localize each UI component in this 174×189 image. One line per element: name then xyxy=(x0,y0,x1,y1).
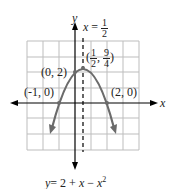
fraction: 1 2 xyxy=(101,18,108,39)
y-axis-down-arrow-icon xyxy=(72,162,78,170)
vertex-label: (12, 94) xyxy=(86,48,114,69)
x-axis-arrow-icon xyxy=(150,100,158,106)
y-axis-label: y xyxy=(72,12,77,24)
vertex-point xyxy=(81,66,85,70)
x-axis-label: x xyxy=(160,97,165,109)
point-2-0 xyxy=(105,101,109,105)
point-label-2-0: (2, 0) xyxy=(111,86,137,98)
curve-left-arrow-icon xyxy=(49,124,56,134)
point-neg1-0 xyxy=(57,101,61,105)
equation-label: y= 2 + x − x2 xyxy=(45,176,106,189)
x-axis xyxy=(10,100,158,106)
y-axis xyxy=(72,22,78,170)
point-label-neg1-0: (-1, 0) xyxy=(24,86,54,98)
point-0-2 xyxy=(73,70,77,74)
x-axis-left-arrow-icon xyxy=(10,100,18,106)
axis-of-symmetry-label: x = 1 2 xyxy=(83,18,108,39)
curve-right-arrow-icon xyxy=(110,124,117,134)
point-label-0-2: (0, 2) xyxy=(41,66,67,78)
